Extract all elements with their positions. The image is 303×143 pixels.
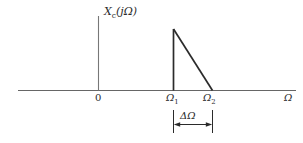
bandwidth-label: ΔΩ: [180, 111, 196, 121]
function-label: Xc(jΩ): [104, 6, 137, 20]
origin-tick-label: 0: [95, 93, 101, 103]
x-axis-label: Ω: [284, 93, 292, 103]
bandwidth-arrowhead-right: [206, 122, 212, 127]
figure-canvas: [0, 0, 303, 143]
spectrum-falling-edge: [174, 29, 213, 91]
omega1-tick-label: Ω1: [166, 93, 179, 106]
omega2-tick-label: Ω2: [203, 93, 216, 106]
bandwidth-arrowhead-left: [174, 122, 180, 127]
spectrum-figure: Xc(jΩ) 0 Ω1 Ω2 Ω ΔΩ: [0, 0, 303, 143]
